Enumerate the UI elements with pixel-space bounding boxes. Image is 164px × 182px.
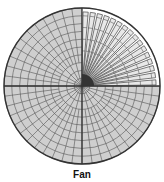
caption-label: Fan — [0, 169, 164, 181]
fan-pattern — [82, 8, 160, 86]
polar-fan-diagram — [0, 0, 164, 168]
